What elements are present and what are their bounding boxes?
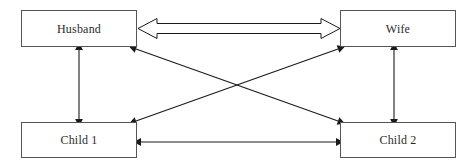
node-wife-label: Wife — [386, 23, 410, 35]
family-interaction-diagram: Husband Wife Child 1 Child 2 — [0, 0, 474, 163]
node-child2[interactable]: Child 2 — [340, 122, 456, 158]
edge-husband-wife — [138, 19, 340, 39]
node-child2-label: Child 2 — [379, 134, 416, 146]
node-wife[interactable]: Wife — [340, 10, 456, 47]
node-child1-label: Child 1 — [60, 134, 97, 146]
node-child1[interactable]: Child 1 — [21, 122, 137, 158]
node-husband[interactable]: Husband — [21, 10, 137, 47]
node-husband-label: Husband — [57, 23, 101, 35]
